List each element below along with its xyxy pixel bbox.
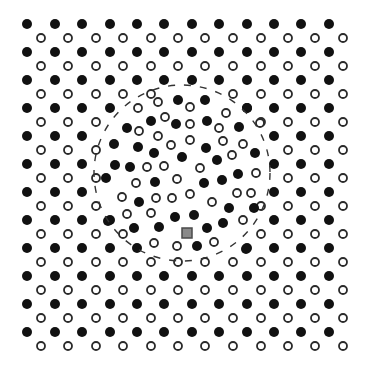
filled-site xyxy=(77,159,87,169)
filled-site xyxy=(296,47,306,57)
filled-site xyxy=(77,75,87,85)
filled-site xyxy=(50,19,60,29)
disordered-open-site xyxy=(186,136,194,144)
filled-site xyxy=(269,47,279,57)
filled-site xyxy=(159,19,169,29)
filled-site xyxy=(132,327,142,337)
open-site xyxy=(257,34,265,42)
filled-site xyxy=(159,299,169,309)
filled-site xyxy=(105,327,115,337)
open-site xyxy=(147,62,155,70)
disordered-open-site xyxy=(150,239,158,247)
open-site xyxy=(174,314,182,322)
disordered-filled-site xyxy=(109,139,119,149)
disordered-open-site xyxy=(222,109,230,117)
disordered-filled-site xyxy=(199,178,209,188)
open-site xyxy=(311,146,319,154)
open-site xyxy=(37,90,45,98)
open-site xyxy=(92,258,100,266)
open-site xyxy=(92,174,100,182)
filled-site xyxy=(296,159,306,169)
open-site xyxy=(311,174,319,182)
disordered-filled-site xyxy=(201,143,211,153)
filled-site xyxy=(159,327,169,337)
disordered-filled-site xyxy=(217,175,227,185)
open-site xyxy=(147,342,155,350)
open-site xyxy=(64,258,72,266)
filled-site xyxy=(269,19,279,29)
filled-site xyxy=(50,215,60,225)
filled-site xyxy=(187,299,197,309)
open-site xyxy=(339,202,347,210)
disordered-open-site xyxy=(152,194,160,202)
open-site xyxy=(64,90,72,98)
open-site xyxy=(92,90,100,98)
disordered-open-site xyxy=(210,238,218,246)
filled-site xyxy=(324,159,334,169)
disordered-open-site xyxy=(247,189,255,197)
filled-site xyxy=(159,47,169,57)
disordered-filled-site xyxy=(224,203,234,213)
filled-site xyxy=(77,187,87,197)
filled-site xyxy=(296,19,306,29)
filled-site xyxy=(50,47,60,57)
open-site xyxy=(174,342,182,350)
open-site xyxy=(201,34,209,42)
filled-site xyxy=(50,243,60,253)
filled-site xyxy=(22,299,32,309)
filled-site xyxy=(214,75,224,85)
disordered-open-site xyxy=(161,113,169,121)
disordered-open-site xyxy=(132,179,140,187)
disordered-open-site xyxy=(219,137,227,145)
open-site xyxy=(119,314,127,322)
disordered-open-site xyxy=(256,119,264,127)
filled-site xyxy=(105,75,115,85)
open-site xyxy=(201,314,209,322)
disordered-open-site xyxy=(228,151,236,159)
filled-site xyxy=(105,243,115,253)
filled-site xyxy=(50,103,60,113)
disordered-open-site xyxy=(147,209,155,217)
open-site xyxy=(174,286,182,294)
open-site xyxy=(284,286,292,294)
open-site xyxy=(257,314,265,322)
filled-site xyxy=(324,243,334,253)
open-site xyxy=(147,90,155,98)
open-site xyxy=(92,62,100,70)
filled-site xyxy=(77,103,87,113)
filled-site xyxy=(296,327,306,337)
open-site xyxy=(37,342,45,350)
open-site xyxy=(311,342,319,350)
open-site xyxy=(64,34,72,42)
open-site xyxy=(311,34,319,42)
filled-site xyxy=(269,103,279,113)
filled-site xyxy=(296,271,306,281)
open-site xyxy=(339,62,347,70)
open-site xyxy=(147,258,155,266)
filled-site xyxy=(187,75,197,85)
open-site xyxy=(311,286,319,294)
filled-site xyxy=(242,47,252,57)
filled-site xyxy=(242,19,252,29)
filled-site xyxy=(214,327,224,337)
open-site xyxy=(229,34,237,42)
open-site xyxy=(64,314,72,322)
disordered-filled-site xyxy=(202,223,212,233)
open-site xyxy=(229,258,237,266)
open-site xyxy=(339,90,347,98)
disordered-open-site xyxy=(168,194,176,202)
disordered-open-site xyxy=(154,98,162,106)
disordered-open-site xyxy=(239,216,247,224)
filled-site xyxy=(22,131,32,141)
filled-site xyxy=(187,47,197,57)
open-site xyxy=(284,314,292,322)
disordered-filled-site xyxy=(177,152,187,162)
open-site xyxy=(284,174,292,182)
filled-site xyxy=(132,243,142,253)
filled-site xyxy=(269,131,279,141)
filled-site xyxy=(50,131,60,141)
filled-site xyxy=(50,187,60,197)
filled-site xyxy=(242,75,252,85)
open-site xyxy=(201,62,209,70)
filled-site xyxy=(269,215,279,225)
